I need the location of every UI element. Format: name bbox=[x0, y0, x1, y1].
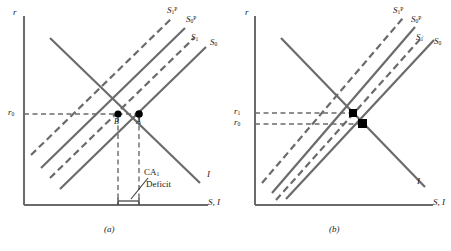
panel-b-curve-S1P bbox=[262, 18, 403, 183]
panel-a-annotation-ca1: CA1 bbox=[144, 168, 159, 178]
panel-b-tick-r1: r1 bbox=[234, 107, 240, 117]
panel-b-curve-S1 bbox=[276, 36, 423, 200]
panel-b-label-S0P: S0P bbox=[411, 15, 421, 25]
panel-a-curve-I bbox=[50, 38, 200, 183]
panel-b-y-axis-label: r bbox=[245, 8, 249, 17]
panel-b-caption: (b) bbox=[329, 224, 340, 234]
panel-b-tick-r0: r0 bbox=[234, 118, 240, 128]
panel-a-label-S1P: S1P bbox=[167, 6, 177, 16]
panel-a-label-S1: S1 bbox=[191, 33, 198, 43]
panel-a-x-axis-label: S, I bbox=[208, 198, 220, 207]
panel-a-caption: (a) bbox=[104, 224, 115, 234]
panel-a-point-label-B: B bbox=[114, 118, 119, 126]
panel-b-label-S1: S1 bbox=[416, 33, 423, 43]
panel-b-label-I: I bbox=[417, 177, 420, 186]
panel-a-label-S0P: S0P bbox=[186, 15, 196, 25]
panel-a-point-label-A: A bbox=[136, 118, 141, 126]
panel-a-label-S0: S0 bbox=[210, 38, 217, 48]
panel-a-label-I: I bbox=[207, 170, 210, 179]
panel-a-annotation-deficit: Deficit bbox=[146, 180, 171, 189]
panel-b-point-lower bbox=[358, 119, 367, 128]
figure-container: r r0 S, I S1P S0P S1 S0 I B A CA1 Defici… bbox=[0, 0, 451, 251]
panel-b-label-S0: S0 bbox=[434, 37, 441, 47]
panel-b-point-upper bbox=[349, 109, 357, 117]
panel-a-tick-r0: r0 bbox=[8, 108, 14, 118]
panel-a-deficit-bracket bbox=[118, 198, 139, 205]
panel-a-y-axis-label: r bbox=[13, 8, 17, 17]
panel-b-label-S1P: S1P bbox=[393, 6, 403, 16]
panel-b-x-axis-label: S, I bbox=[433, 198, 445, 207]
